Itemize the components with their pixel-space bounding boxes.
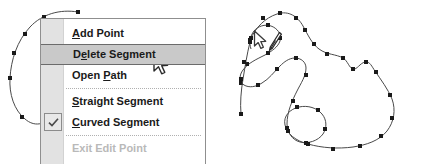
menu-item-curved-segment[interactable]: Curved Segment xyxy=(41,112,205,133)
path-anchor-point[interactable] xyxy=(8,76,12,80)
path-anchor-point[interactable] xyxy=(278,11,282,15)
path-anchor-point[interactable] xyxy=(245,62,249,66)
path-anchor-point[interactable] xyxy=(325,52,329,56)
path-anchor-point[interactable] xyxy=(239,77,243,81)
path-anchor-point[interactable] xyxy=(316,108,320,112)
path-anchor-point[interactable] xyxy=(303,28,307,32)
menu-item-straight-segment[interactable]: Straight Segment xyxy=(41,91,205,112)
menu-accelerator-char: e xyxy=(81,48,87,60)
path-anchor-point[interactable] xyxy=(323,127,327,131)
right-shape-anchors xyxy=(239,11,394,151)
path-anchor-point[interactable] xyxy=(351,67,355,71)
path-anchor-point[interactable] xyxy=(242,60,246,64)
path-anchor-point[interactable] xyxy=(286,129,290,133)
path-anchor-point[interactable] xyxy=(331,147,335,151)
menu-item-list: Add PointDelete SegmentOpen PathStraight… xyxy=(41,23,205,159)
pen-cursor-icon xyxy=(253,30,283,56)
path-anchor-point[interactable] xyxy=(312,42,316,46)
check-icon xyxy=(48,118,59,128)
path-anchor-point[interactable] xyxy=(374,70,378,74)
path-anchor-point[interactable] xyxy=(256,83,260,87)
path-anchor-point[interactable] xyxy=(248,38,252,42)
left-open-stub-stroke xyxy=(241,42,250,114)
menu-accelerator-char: C xyxy=(72,116,80,128)
path-anchor-point[interactable] xyxy=(291,99,295,103)
path-anchor-point[interactable] xyxy=(294,56,298,60)
path-anchor-point[interactable] xyxy=(358,144,362,148)
menu-item-label: Straight Segment xyxy=(72,95,163,107)
path-anchor-point[interactable] xyxy=(20,115,24,119)
menu-item-delete-segment[interactable]: Delete Segment xyxy=(40,44,206,65)
menu-item-label: Exit Edit Point xyxy=(72,142,147,154)
path-anchor-point[interactable] xyxy=(275,67,279,71)
path-anchor-point[interactable] xyxy=(278,36,282,40)
path-anchor-point[interactable] xyxy=(341,56,345,60)
menu-item-open-path[interactable]: Open Path xyxy=(41,65,205,86)
left-open-stub xyxy=(239,40,252,116)
path-anchor-point[interactable] xyxy=(23,32,27,36)
menu-item-label: Delete Segment xyxy=(73,48,156,60)
path-anchor-point[interactable] xyxy=(239,112,243,116)
path-anchor-point[interactable] xyxy=(249,36,253,40)
path-anchor-point[interactable] xyxy=(239,81,243,85)
path-anchor-point[interactable] xyxy=(388,93,392,97)
path-anchor-point[interactable] xyxy=(261,16,265,20)
menu-item-checkbox xyxy=(44,113,62,131)
right-vector-shape xyxy=(239,11,394,151)
path-anchor-point[interactable] xyxy=(295,105,299,109)
screenshot-canvas: Add PointDelete SegmentOpen PathStraight… xyxy=(0,0,427,164)
menu-item-exit-edit-point: Exit Edit Point xyxy=(41,138,205,159)
path-anchor-point[interactable] xyxy=(76,10,80,14)
menu-item-label: Open Path xyxy=(72,69,127,81)
path-anchor-point[interactable] xyxy=(379,134,383,138)
path-anchor-point[interactable] xyxy=(304,73,308,77)
path-anchor-point[interactable] xyxy=(248,40,252,44)
right-shape-stroke xyxy=(240,13,394,148)
path-anchor-point[interactable] xyxy=(304,141,308,145)
menu-item-label: Curved Segment xyxy=(72,116,159,128)
path-anchor-point[interactable] xyxy=(390,116,394,120)
path-anchor-point[interactable] xyxy=(266,51,270,55)
path-anchor-point[interactable] xyxy=(306,142,310,146)
menu-accelerator-char: P xyxy=(103,69,110,81)
path-anchor-point[interactable] xyxy=(364,60,368,64)
menu-item-add-point[interactable]: Add Point xyxy=(41,23,205,44)
menu-accelerator-char: A xyxy=(72,27,80,39)
menu-item-label: Add Point xyxy=(72,27,124,39)
path-anchor-point[interactable] xyxy=(266,23,270,27)
path-anchor-point[interactable] xyxy=(285,126,289,130)
path-edit-context-menu[interactable]: Add PointDelete SegmentOpen PathStraight… xyxy=(40,18,206,164)
path-anchor-point[interactable] xyxy=(12,51,16,55)
path-anchor-point[interactable] xyxy=(294,16,298,20)
menu-accelerator-char: S xyxy=(72,95,79,107)
